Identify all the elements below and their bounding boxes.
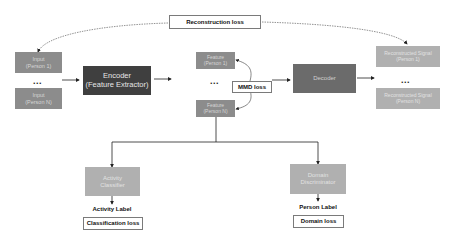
feature-person-n-box: Feature (Person N) xyxy=(196,100,235,117)
input-person-n-subtitle: (Person N) xyxy=(25,99,52,105)
input-person-n-box: Input (Person N) xyxy=(15,88,62,109)
inputs-ellipsis: ... xyxy=(33,76,42,86)
reconstruction-loss-box: Reconstruction loss xyxy=(169,15,261,29)
person-label: Person Label xyxy=(290,204,346,210)
decoder-box: Decoder xyxy=(293,64,356,93)
classification-loss-box: Classification loss xyxy=(83,217,143,230)
reconstructed-person-1-box: Reconstructed Signal (Person 1) xyxy=(376,46,440,67)
features-ellipsis: ... xyxy=(210,76,219,86)
domain-discriminator-box: Domain Discriminator xyxy=(290,164,346,194)
classification-loss-label: Classification loss xyxy=(87,220,140,227)
reconstructed-ellipsis: ... xyxy=(401,75,410,85)
mmd-loss-label: MMD loss xyxy=(238,84,266,91)
reconstructed-person-n-subtitle: (Person N) xyxy=(396,99,420,105)
domain-loss-label: Domain loss xyxy=(301,218,337,225)
input-person-1-subtitle: (Person 1) xyxy=(26,63,52,69)
domain-loss-box: Domain loss xyxy=(293,215,344,228)
decoder-title: Decoder xyxy=(313,75,336,82)
connector-lines xyxy=(0,0,453,241)
feature-person-1-box: Feature (Person 1) xyxy=(196,52,235,69)
reconstructed-person-1-subtitle: (Person 1) xyxy=(396,57,419,63)
reconstructed-person-n-box: Reconstructed Signal (Person N) xyxy=(376,88,440,109)
domain-discriminator-subtitle: Discriminator xyxy=(300,179,335,186)
activity-classifier-subtitle: Classifier xyxy=(100,182,125,189)
feature-person-1-subtitle: (Person 1) xyxy=(204,61,227,67)
activity-label: Activity Label xyxy=(82,206,142,212)
activity-classifier-box: Activity Classifier xyxy=(85,167,140,196)
reconstruction-loss-label: Reconstruction loss xyxy=(186,19,244,26)
feature-person-n-subtitle: (Person N) xyxy=(203,109,227,115)
mmd-loss-box: MMD loss xyxy=(232,81,272,93)
domain-discriminator-title: Domain xyxy=(308,172,329,179)
activity-classifier-title: Activity xyxy=(103,175,122,182)
encoder-subtitle: (Feature Extractor) xyxy=(86,81,149,90)
encoder-box: Encoder (Feature Extractor) xyxy=(83,66,151,95)
input-person-1-box: Input (Person 1) xyxy=(15,52,62,73)
